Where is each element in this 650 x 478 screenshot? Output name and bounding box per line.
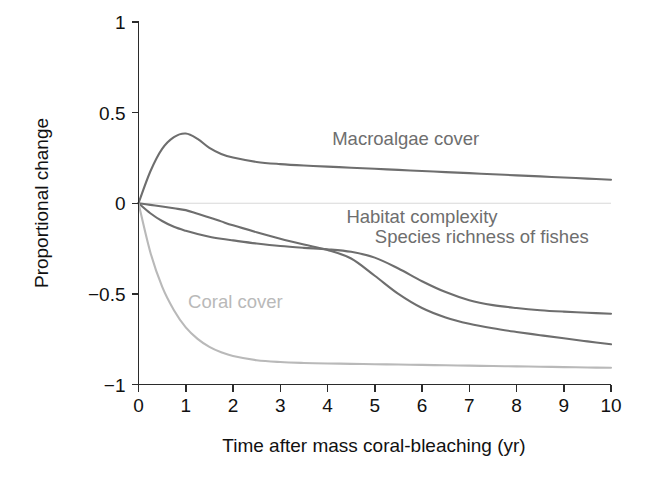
x-tick-label: 5 (369, 395, 380, 416)
line-chart: 10.50−0.5−1 012345678910 Macroalgae cove… (0, 0, 650, 478)
y-tick-label: −0.5 (88, 284, 126, 305)
x-tick-label: 8 (511, 395, 522, 416)
series-label-species-richness-of-fishes: Species richness of fishes (375, 226, 589, 247)
y-tick-label: 1 (115, 12, 126, 33)
y-tick-label: −1 (104, 375, 126, 396)
y-tick-label: 0.5 (99, 103, 125, 124)
x-tick-label: 3 (275, 395, 286, 416)
series-label-macroalgae-cover: Macroalgae cover (332, 128, 479, 149)
chart-figure: 10.50−0.5−1 012345678910 Macroalgae cove… (0, 0, 650, 478)
y-tick-label: 0 (115, 193, 126, 214)
x-tick-label: 10 (600, 395, 621, 416)
x-tick-label: 6 (417, 395, 428, 416)
series-label-coral-cover: Coral cover (188, 291, 283, 312)
x-axis-title: Time after mass coral-bleaching (yr) (222, 435, 525, 456)
x-tick-label: 2 (228, 395, 239, 416)
series-label-habitat-complexity: Habitat complexity (346, 206, 498, 227)
x-tick-label: 4 (322, 395, 333, 416)
x-tick-label: 0 (133, 395, 144, 416)
x-tick-label: 7 (464, 395, 475, 416)
x-tick-label: 1 (180, 395, 191, 416)
x-tick-label: 9 (558, 395, 569, 416)
y-axis-title: Proportional change (31, 118, 52, 288)
